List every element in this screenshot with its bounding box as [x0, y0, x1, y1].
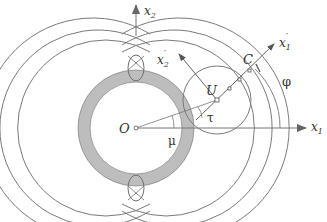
x2-prime-axis-label: x2′: [157, 49, 169, 69]
axis-points: [215, 69, 251, 102]
point-U-label: U: [206, 83, 218, 98]
diagram-canvas: x2 x1 x1′ x2′ C U O φ μ τ: [0, 0, 327, 222]
bottom-loop-cross: [128, 186, 144, 200]
angle-tau-label: τ: [207, 111, 214, 125]
point-C-label: C: [243, 52, 253, 67]
x2-axis-label: x2: [144, 4, 156, 20]
x1-prime-axis: [196, 44, 274, 120]
angle-phi-label: φ: [282, 74, 291, 89]
angle-mu-arc: [172, 115, 174, 128]
x1-prime-axis-label: x1′: [279, 32, 291, 52]
origin-label: O: [119, 121, 130, 136]
top-loop-cross: [128, 56, 144, 70]
x1-axis-label: x1: [311, 120, 323, 136]
field-lines-right: [122, 18, 289, 222]
origin-point: [134, 126, 138, 130]
angle-mu-label: μ: [168, 134, 176, 148]
